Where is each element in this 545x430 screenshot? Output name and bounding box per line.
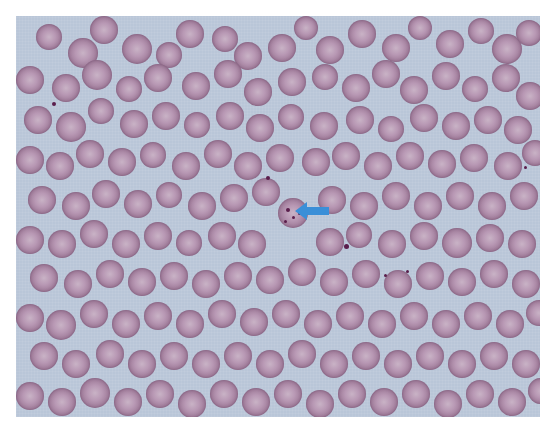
red-blood-cell xyxy=(474,106,502,134)
red-blood-cell xyxy=(144,64,172,92)
red-blood-cell xyxy=(176,230,202,256)
red-blood-cell xyxy=(28,186,56,214)
red-blood-cell xyxy=(336,302,364,330)
red-blood-cell xyxy=(512,270,540,298)
red-blood-cell xyxy=(528,378,540,404)
red-blood-cell xyxy=(238,230,266,258)
red-blood-cell xyxy=(320,350,348,378)
red-blood-cell xyxy=(402,380,430,408)
red-blood-cell xyxy=(306,390,334,417)
red-blood-cell xyxy=(294,16,318,40)
red-blood-cell xyxy=(442,112,470,140)
red-blood-cell xyxy=(224,342,252,370)
red-blood-cell xyxy=(312,64,338,90)
red-blood-cell xyxy=(480,260,508,288)
red-blood-cell xyxy=(512,350,540,378)
red-blood-cell xyxy=(88,98,114,124)
red-blood-cell xyxy=(316,228,344,256)
red-blood-cell xyxy=(144,302,172,330)
red-blood-cell xyxy=(368,310,396,338)
red-blood-cell xyxy=(288,340,316,368)
red-blood-cell xyxy=(342,74,370,102)
red-blood-cell xyxy=(16,146,44,174)
red-blood-cell xyxy=(204,140,232,168)
red-blood-cell xyxy=(350,192,378,220)
red-blood-cell xyxy=(466,380,494,408)
red-blood-cell xyxy=(256,350,284,378)
red-blood-cell xyxy=(448,268,476,296)
red-blood-cell xyxy=(414,192,442,220)
red-blood-cell xyxy=(234,152,262,180)
parasite-dot xyxy=(284,220,287,223)
red-blood-cell xyxy=(172,152,200,180)
red-blood-cell xyxy=(208,222,236,250)
red-blood-cell xyxy=(268,34,296,62)
red-blood-cell xyxy=(16,226,44,254)
red-blood-cell xyxy=(436,30,464,58)
red-blood-cell xyxy=(416,262,444,290)
red-blood-cell xyxy=(214,60,242,88)
red-blood-cell xyxy=(116,76,142,102)
red-blood-cell xyxy=(348,20,376,48)
red-blood-cell xyxy=(400,76,428,104)
red-blood-cell xyxy=(302,148,330,176)
red-blood-cell xyxy=(352,342,380,370)
red-blood-cell xyxy=(256,266,284,294)
red-blood-cell xyxy=(92,180,120,208)
red-blood-cell xyxy=(82,60,112,90)
red-blood-cell xyxy=(46,310,76,340)
red-blood-cell xyxy=(410,104,438,132)
red-blood-cell xyxy=(156,182,182,208)
annotation-arrow-icon xyxy=(295,202,331,220)
red-blood-cell xyxy=(182,72,210,100)
red-blood-cell xyxy=(480,342,508,370)
red-blood-cell xyxy=(378,230,406,258)
parasite-dot xyxy=(344,244,349,249)
red-blood-cell xyxy=(448,350,476,378)
red-blood-cell xyxy=(516,82,540,110)
parasite-dot xyxy=(384,274,387,277)
parasite-dot xyxy=(52,102,56,106)
red-blood-cell xyxy=(160,262,188,290)
red-blood-cell xyxy=(52,74,80,102)
red-blood-cell xyxy=(112,310,140,338)
red-blood-cell xyxy=(382,182,410,210)
red-blood-cell xyxy=(304,310,332,338)
red-blood-cell xyxy=(252,178,280,206)
red-blood-cell xyxy=(244,78,272,106)
red-blood-cell xyxy=(432,310,460,338)
red-blood-cell xyxy=(46,152,74,180)
parasite-dot xyxy=(286,208,290,212)
red-blood-cell xyxy=(460,144,488,172)
red-blood-cell xyxy=(246,114,274,142)
red-blood-cell xyxy=(464,302,492,330)
red-blood-cell xyxy=(384,270,412,298)
red-blood-cell xyxy=(498,388,526,416)
red-blood-cell xyxy=(30,342,58,370)
red-blood-cell xyxy=(120,110,148,138)
red-blood-cell xyxy=(140,142,166,168)
red-blood-cell xyxy=(242,388,270,416)
red-blood-cell xyxy=(378,116,404,142)
parasite-dot xyxy=(524,166,527,169)
red-blood-cell xyxy=(338,380,366,408)
red-blood-cell xyxy=(478,192,506,220)
red-blood-cell xyxy=(114,388,142,416)
red-blood-cell xyxy=(416,342,444,370)
red-blood-cell xyxy=(48,230,76,258)
red-blood-cell xyxy=(428,150,456,178)
red-blood-cell xyxy=(212,26,238,52)
red-blood-cell xyxy=(128,268,156,296)
red-blood-cell xyxy=(144,222,172,250)
red-blood-cell xyxy=(184,112,210,138)
red-blood-cell xyxy=(272,300,300,328)
red-blood-cell xyxy=(90,16,118,44)
red-blood-cell xyxy=(396,142,424,170)
red-blood-cell xyxy=(128,350,156,378)
red-blood-cell xyxy=(316,36,344,64)
red-blood-cell xyxy=(36,24,62,50)
red-blood-cell xyxy=(526,300,540,326)
red-blood-cell xyxy=(80,300,108,328)
red-blood-cell xyxy=(176,20,204,48)
red-blood-cell xyxy=(152,102,180,130)
